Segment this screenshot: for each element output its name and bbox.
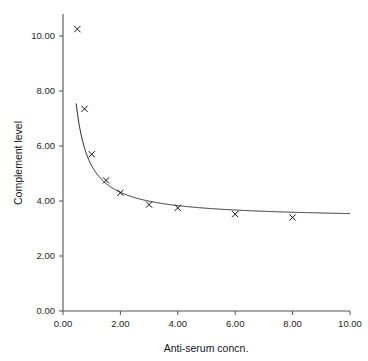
data-point-marker xyxy=(81,106,87,112)
y-tick-label: 2.00 xyxy=(37,250,56,261)
x-tick-label: 8.00 xyxy=(283,318,302,329)
data-point-marker xyxy=(89,151,95,157)
x-tick-label: 0.00 xyxy=(54,318,73,329)
x-axis-ticks xyxy=(63,311,350,315)
data-point-marker xyxy=(103,177,109,183)
fit-curve xyxy=(76,103,350,213)
y-tick-label: 0.00 xyxy=(37,305,56,316)
chart-plot-area: 0.002.004.006.008.0010.00 0.002.004.006.… xyxy=(0,0,368,361)
data-point-marker xyxy=(290,214,296,220)
chart-container: 0.002.004.006.008.0010.00 0.002.004.006.… xyxy=(0,0,368,361)
x-axis-title: Anti-serum concn. xyxy=(164,342,249,354)
data-point-marker xyxy=(74,26,80,32)
x-tick-label: 6.00 xyxy=(226,318,245,329)
y-tick-label: 4.00 xyxy=(37,195,56,206)
x-tick-label: 2.00 xyxy=(111,318,130,329)
x-tick-label: 10.00 xyxy=(338,318,362,329)
x-axis-group: 0.002.004.006.008.0010.00 xyxy=(54,311,362,329)
y-tick-label: 8.00 xyxy=(37,85,56,96)
data-point-marker xyxy=(232,211,238,217)
data-point-markers xyxy=(74,26,295,221)
data-point-marker xyxy=(146,201,152,207)
x-tick-label: 4.00 xyxy=(169,318,188,329)
y-tick-label: 10.00 xyxy=(31,30,55,41)
y-axis-ticks xyxy=(59,36,63,311)
y-tick-label: 6.00 xyxy=(37,140,56,151)
y-axis-tick-labels: 0.002.004.006.008.0010.00 xyxy=(31,30,55,316)
x-axis-tick-labels: 0.002.004.006.008.0010.00 xyxy=(54,318,362,329)
y-axis-title: Complement level xyxy=(12,121,24,205)
y-axis-group: 0.002.004.006.008.0010.00 xyxy=(31,14,63,316)
